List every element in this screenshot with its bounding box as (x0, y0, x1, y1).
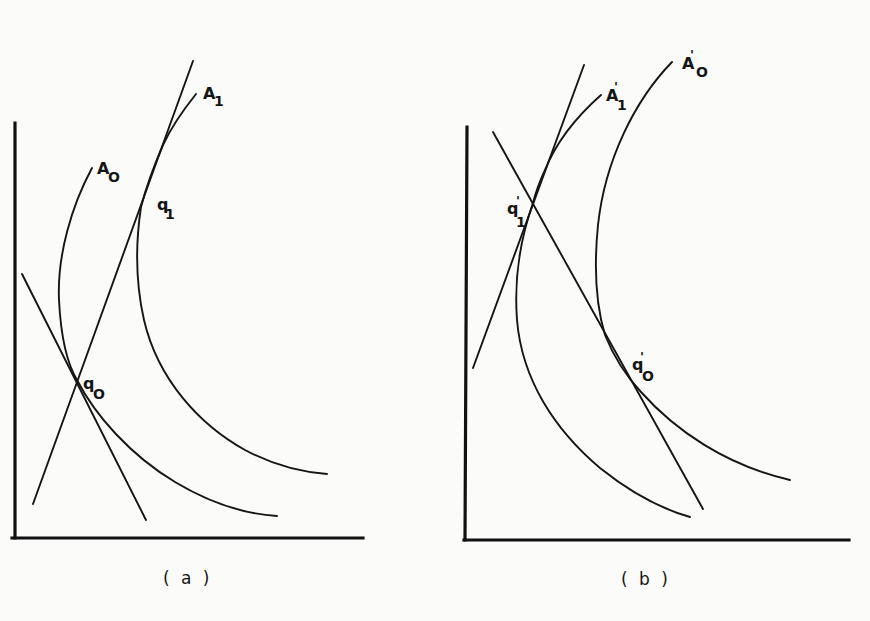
panel-a-isoquant-A1 (137, 94, 327, 474)
panel-b-isoquant-A0-prime (596, 62, 790, 480)
svg-text:': ' (516, 193, 520, 208)
svg-text:': ' (690, 47, 694, 62)
svg-text:O: O (696, 64, 708, 80)
panel-a-steep-line (33, 61, 193, 504)
label-A1: A 1 (203, 84, 224, 109)
isoquant-figure: A O A 1 q 1 q O ( a ) (0, 0, 870, 621)
panel-a: A O A 1 q 1 q O ( a ) (12, 61, 363, 588)
svg-text:1: 1 (617, 97, 627, 113)
svg-text:O: O (642, 368, 654, 384)
svg-text:1: 1 (165, 206, 175, 222)
svg-text:O: O (108, 169, 120, 185)
svg-text:1: 1 (516, 214, 526, 230)
panel-b-downward-line (493, 132, 703, 509)
label-A0-prime: A ' O (682, 47, 708, 80)
svg-text:': ' (640, 349, 644, 364)
svg-text:': ' (614, 79, 618, 94)
svg-text:1: 1 (214, 93, 224, 109)
figure-canvas: A O A 1 q 1 q O ( a ) (0, 0, 870, 621)
panel-b-caption: ( b ) (621, 569, 671, 589)
label-q1-prime: q ' 1 (507, 193, 526, 230)
panel-b-isoquant-A1-prime (516, 95, 690, 517)
panel-a-caption: ( a ) (163, 568, 213, 588)
label-A0: A O (97, 159, 120, 185)
label-q0-prime: q ' O (632, 349, 654, 384)
svg-text:O: O (93, 386, 105, 402)
panel-b: A ' O A ' 1 q ' 1 q ' O ( b ) (464, 47, 849, 589)
label-A1-prime: A ' 1 (606, 79, 627, 113)
panel-b-y-axis (465, 127, 467, 540)
panel-b-steep-line (473, 65, 584, 368)
label-q1: q 1 (157, 195, 175, 222)
